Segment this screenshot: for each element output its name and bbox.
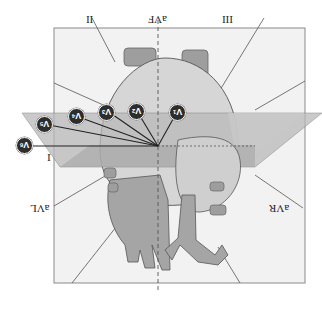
lead-avl-label: aVL [30, 203, 50, 214]
lead-i-label: I [47, 152, 51, 163]
ecg-lead-diagram: V6 V5 V4 V3 V2 V1 II aVF III I aVL aVR [0, 0, 322, 309]
lead-v6-marker: V6 [16, 137, 33, 154]
lead-v5-marker: V5 [36, 116, 53, 133]
lead-iii-label: III [222, 14, 233, 25]
lead-avr-label: aVR [269, 203, 289, 214]
lead-avf-label: aVF [148, 14, 167, 25]
lead-v3-marker: V3 [98, 104, 115, 121]
lead-ii-label: II [86, 14, 93, 25]
lead-v2-marker: V2 [128, 103, 145, 120]
lead-v4-marker: V4 [68, 108, 85, 125]
lead-v1-marker: V1 [169, 104, 186, 121]
